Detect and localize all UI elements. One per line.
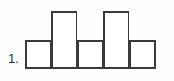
bar-2 xyxy=(51,11,77,69)
plot-area xyxy=(25,6,156,69)
item-number-label: 1. xyxy=(8,52,19,66)
bar-1 xyxy=(25,40,51,69)
bar-group xyxy=(25,6,156,69)
bar-5 xyxy=(129,40,156,69)
histogram-figure: 1. xyxy=(0,0,174,81)
bar-4 xyxy=(103,11,129,69)
bar-3 xyxy=(77,40,103,69)
